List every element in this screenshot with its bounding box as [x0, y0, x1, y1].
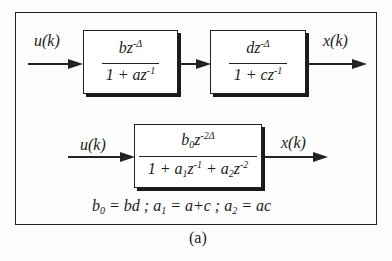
block2-numerator: dz-Δ: [211, 39, 305, 57]
arrow-head-icon: [120, 152, 135, 162]
bottom-output-line: [265, 156, 319, 158]
fraction-bar: [229, 63, 287, 64]
fraction-bar: [139, 156, 257, 157]
top-input-line: [28, 63, 73, 65]
top-output-line: [309, 63, 355, 65]
top-input-label: u(k): [34, 32, 60, 50]
bottom-input-label: u(k): [80, 136, 106, 154]
combined-numerator: b0z-2Δ: [135, 131, 261, 149]
coefficient-equation: b0 = bd ; a1 = a+c ; a2 = ac: [92, 197, 271, 215]
top-output-label: x(k): [323, 32, 348, 50]
bottom-input-line: [68, 156, 126, 158]
combined-transfer-block: b0z-2Δ 1 + a1z-1 + a2z-2: [134, 124, 262, 188]
block2-denominator: 1 + cz-1: [211, 66, 305, 84]
transfer-block-1: bz-Δ 1 + az-1: [83, 30, 178, 94]
block1-numerator: bz-Δ: [84, 39, 177, 57]
block1-denominator: 1 + az-1: [84, 66, 177, 84]
figure-caption: (a): [189, 229, 207, 247]
bottom-output-label: x(k): [281, 134, 306, 152]
arrow-head-icon: [352, 59, 367, 69]
combined-denominator: 1 + a1z-1 + a2z-2: [135, 160, 261, 178]
fraction-bar: [102, 63, 159, 64]
arrow-head-icon: [196, 59, 211, 69]
arrow-head-icon: [68, 59, 83, 69]
arrow-head-icon: [313, 152, 328, 162]
transfer-block-2: dz-Δ 1 + cz-1: [210, 30, 306, 94]
